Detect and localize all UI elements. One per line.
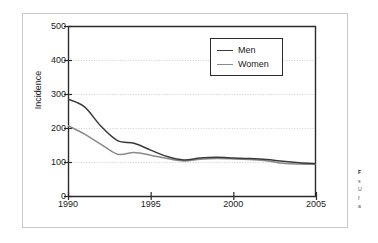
x-tick-label: 2005 (306, 199, 326, 209)
legend-label-men: Men (238, 45, 256, 55)
series-line-men (68, 99, 316, 164)
legend-swatch-women (217, 64, 233, 65)
figure-caption: FsUfa (358, 168, 378, 224)
incidence-line-chart: 0100200300400500 1990199520002005 Incide… (0, 0, 378, 243)
caption-line: U (358, 185, 378, 194)
y-tick-label: 500 (38, 22, 66, 31)
y-axis-title: Incidence (33, 50, 43, 130)
legend-swatch-men (217, 50, 233, 51)
legend-item-women: Women (217, 57, 282, 71)
x-tick-label: 1990 (58, 199, 78, 209)
chart-legend: Men Women (210, 38, 283, 76)
x-tick-label: 2000 (223, 199, 243, 209)
legend-item-men: Men (217, 43, 282, 57)
caption-line: s (358, 177, 378, 186)
caption-line: f (358, 194, 378, 203)
legend-label-women: Women (238, 59, 269, 69)
caption-line: F (358, 168, 378, 177)
x-axis-tick-labels: 1990199520002005 (0, 199, 378, 213)
caption-line: a (358, 202, 378, 211)
y-tick-label: 100 (38, 158, 66, 167)
x-tick-label: 1995 (141, 199, 161, 209)
